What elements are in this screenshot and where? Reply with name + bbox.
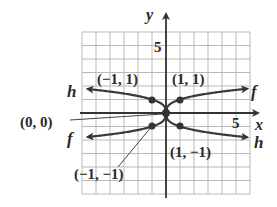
label-f-left: f	[67, 129, 75, 148]
point-origin	[162, 109, 170, 117]
leader-origin	[70, 114, 163, 120]
point-neg1-1	[149, 97, 156, 104]
y-tick-label-5: 5	[154, 39, 162, 55]
label-origin: (0, 0)	[20, 114, 53, 131]
function-graph: y x 5 5 (−1, 1) (1, 1) (0, 0) (−1, −1) (…	[0, 0, 277, 207]
point-neg1-neg1	[149, 123, 156, 130]
label-h-right: h	[254, 133, 263, 152]
x-tick-label-5: 5	[232, 115, 240, 131]
label-neg1-1: (−1, 1)	[97, 71, 138, 88]
label-f-right: f	[251, 82, 259, 101]
point-1-neg1	[177, 123, 184, 130]
label-h-left: h	[67, 82, 76, 101]
label-1-neg1: (1, −1)	[170, 144, 211, 161]
label-neg1-neg1: (−1, −1)	[74, 166, 124, 183]
y-axis-label: y	[144, 6, 154, 24]
point-1-1	[177, 97, 184, 104]
label-1-1: (1, 1)	[172, 71, 205, 88]
x-axis-label: x	[254, 116, 263, 133]
